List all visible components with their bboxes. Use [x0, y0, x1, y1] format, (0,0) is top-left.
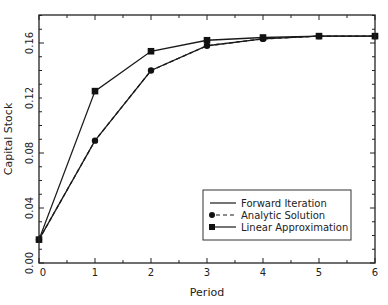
- legend: Forward Iteration Analytic Solution Line…: [203, 190, 351, 240]
- y-tick-label: 0.08: [24, 142, 35, 164]
- svg-text:Linear Approximation: Linear Approximation: [241, 222, 348, 233]
- svg-text:Forward Iteration: Forward Iteration: [241, 198, 327, 209]
- svg-text:Analytic Solution: Analytic Solution: [241, 210, 325, 221]
- y-axis-label: Capital Stock: [2, 102, 15, 175]
- x-tick-label: 2: [148, 267, 154, 278]
- x-axis-label: Period: [190, 286, 224, 299]
- square-marker-icon: [148, 48, 155, 55]
- circle-marker-icon: [148, 67, 154, 73]
- y-tick-label: 0.12: [24, 87, 35, 109]
- x-tick-label: 1: [92, 267, 98, 278]
- square-marker-icon: [316, 33, 323, 40]
- circle-marker-icon: [92, 137, 98, 143]
- x-tick-label: 0: [40, 267, 46, 278]
- x-tick-label: 3: [204, 267, 210, 278]
- square-marker-icon: [209, 224, 215, 230]
- circle-marker-icon: [209, 212, 215, 218]
- x-tick-label: 4: [260, 267, 266, 278]
- y-tick-label: 0.04: [24, 197, 35, 219]
- square-marker-icon: [204, 37, 211, 44]
- y-tick-label: 0.00: [24, 252, 35, 274]
- x-tick-label: 6: [372, 267, 378, 278]
- square-marker-icon: [92, 88, 99, 95]
- square-marker-icon: [260, 34, 267, 41]
- line-chart: 0.000.040.080.120.16 0123456 Period Capi…: [0, 0, 388, 305]
- x-tick-label: 5: [316, 267, 322, 278]
- y-tick-label: 0.16: [24, 32, 35, 54]
